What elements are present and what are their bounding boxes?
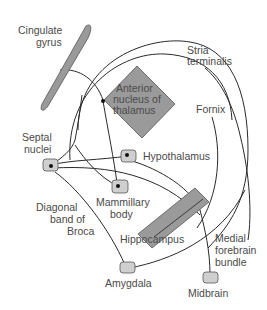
septal-label-1: Septal — [22, 131, 52, 143]
amygdala-label: Amygdala — [105, 277, 152, 289]
mammillary-terminal-dot — [116, 184, 120, 188]
stria-label-2: terminalis — [187, 55, 232, 67]
hypothalamus-terminal-dot — [125, 153, 129, 157]
cingulate-label-2: gyrus — [36, 36, 62, 48]
medial-label-1: Medial — [215, 232, 246, 244]
septal-branch-path — [51, 95, 82, 165]
septal-label-2: nuclei — [24, 143, 51, 155]
diagonal-label-1: Diagonal — [36, 201, 77, 213]
thalamus-terminal-dot — [101, 99, 105, 103]
midbrain-node[interactable] — [203, 272, 218, 283]
stria-terminalis-lead — [205, 68, 250, 240]
mammillary-body-node[interactable] — [112, 180, 128, 193]
amygdala-node[interactable] — [120, 262, 135, 273]
medial-label-2: forebrain — [215, 244, 257, 256]
hypothalamus-label: Hypothalamus — [143, 150, 210, 162]
cingulate-label-1: Cingulate — [18, 24, 63, 36]
mammillary-label-1: Mammillary — [96, 196, 150, 208]
medial-label-3: bundle — [215, 256, 247, 268]
midbrain-label: Midbrain — [188, 287, 228, 299]
fornix-label: Fornix — [196, 103, 226, 115]
mammillary-label-2: body — [110, 208, 134, 220]
septal-terminal-dot — [49, 164, 53, 168]
hippocampus-label: Hippocampus — [120, 233, 184, 245]
diagonal-label-2: band of — [50, 213, 85, 225]
anterior-label-3: thalamus — [113, 104, 156, 116]
diagonal-label-3: Broca — [67, 225, 95, 237]
limbic-system-diagram: Cingulate gyrus Stria terminalis Anterio… — [0, 0, 267, 310]
